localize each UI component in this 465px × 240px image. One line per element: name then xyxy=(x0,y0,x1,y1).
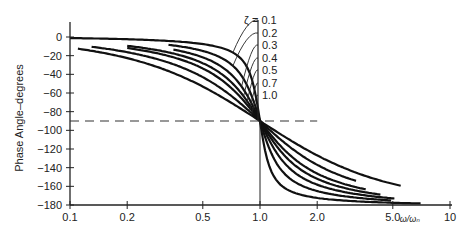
y-tick-label: −20 xyxy=(43,50,62,62)
x-tick-label: 1.0 xyxy=(252,211,267,223)
x-axis-label: ω/ωₙ xyxy=(400,214,421,224)
phase-curve-zeta-1 xyxy=(78,49,401,186)
y-tick-label: −140 xyxy=(37,162,62,174)
x-tick-label: 0.5 xyxy=(195,211,210,223)
y-tick-label: −60 xyxy=(43,87,62,99)
x-tick-label: 0.1 xyxy=(62,211,77,223)
legend-label-zeta-0.3: 0.3 xyxy=(262,39,277,51)
y-tick-label: −100 xyxy=(37,124,62,136)
axes xyxy=(70,22,452,205)
legend-label-zeta-0.2: 0.2 xyxy=(262,27,277,39)
x-ticks: 0.10.20.51.02.05.010 xyxy=(62,201,456,223)
y-axis-label: Phase Angle–degrees xyxy=(13,64,25,172)
x-tick-label: 5.0 xyxy=(385,211,400,223)
y-ticks: 0−20−40−60−80−100−120−140−160−180 xyxy=(37,31,74,211)
legend-label-zeta-0.4: 0.4 xyxy=(262,52,277,64)
legend-label-zeta-1: 1.0 xyxy=(262,89,277,101)
x-tick-label: 0.2 xyxy=(120,211,135,223)
phase-angle-chart: 0−20−40−60−80−100−120−140−160−180 0.10.2… xyxy=(0,0,465,240)
y-tick-label: −160 xyxy=(37,180,62,192)
y-tick-label: −180 xyxy=(37,199,62,211)
y-tick-label: 0 xyxy=(56,31,62,43)
y-tick-label: −40 xyxy=(43,68,62,80)
x-tick-label: 10 xyxy=(444,211,456,223)
y-tick-label: −120 xyxy=(37,143,62,155)
legend-label-zeta-0.7: 0.7 xyxy=(262,77,277,89)
phase-curve-zeta-0.7 xyxy=(92,47,356,181)
phase-curve-zeta-0.3 xyxy=(173,50,394,199)
x-tick-label: 2.0 xyxy=(310,211,325,223)
y-tick-label: −80 xyxy=(43,106,62,118)
legend-label-zeta-0.5: 0.5 xyxy=(262,64,277,76)
phase-curve-zeta-0.4 xyxy=(127,46,380,195)
